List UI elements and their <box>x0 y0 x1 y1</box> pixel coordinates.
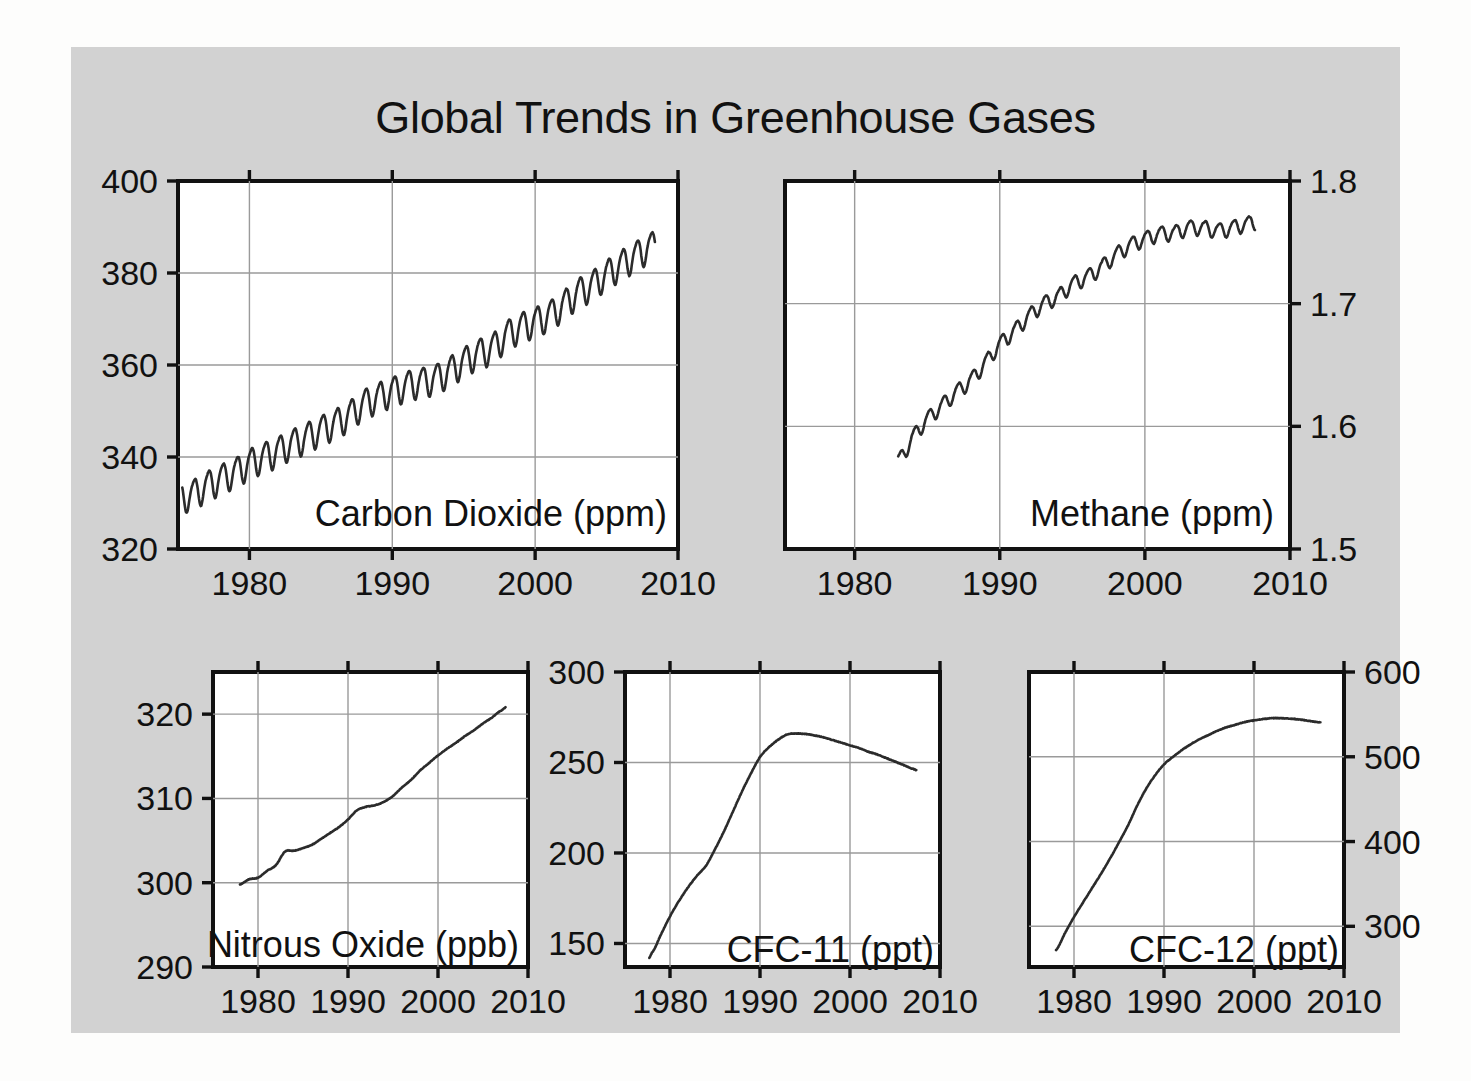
y-tick-label: 380 <box>101 254 158 292</box>
page-title: Global Trends in Greenhouse Gases <box>71 92 1400 144</box>
panel-caption-cfc-12: CFC-12 (ppt) <box>1129 929 1339 970</box>
y-tick-label: 300 <box>1364 907 1421 945</box>
slide-canvas: Global Trends in Greenhouse Gases 198019… <box>71 47 1400 1033</box>
y-tick-label: 150 <box>548 924 605 962</box>
chart-svg-methane: 19801990200020101.51.61.71.8Methane (ppm… <box>714 141 1364 641</box>
x-tick-label: 2000 <box>1216 982 1292 1020</box>
x-tick-label: 2000 <box>400 982 476 1020</box>
chart-panel-carbon-dioxide: 1980199020002010320340360380400Carbon Di… <box>107 141 707 641</box>
y-tick-label: 340 <box>101 438 158 476</box>
chart-svg-carbon-dioxide: 1980199020002010320340360380400Carbon Di… <box>107 141 707 641</box>
y-tick-label: 300 <box>548 653 605 691</box>
plot-frame <box>1029 672 1344 967</box>
x-tick-label: 2010 <box>640 564 716 602</box>
x-tick-label: 1980 <box>1036 982 1112 1020</box>
x-tick-label: 2000 <box>497 564 573 602</box>
x-tick-label: 1990 <box>722 982 798 1020</box>
y-tick-label: 290 <box>136 948 193 986</box>
panel-caption-nitrous-oxide: Nitrous Oxide (ppb) <box>207 924 519 965</box>
y-tick-label: 310 <box>136 779 193 817</box>
x-tick-label: 2010 <box>1252 564 1328 602</box>
y-tick-label: 300 <box>136 864 193 902</box>
y-tick-label: 360 <box>101 346 158 384</box>
y-tick-label: 250 <box>548 743 605 781</box>
x-tick-label: 1990 <box>354 564 430 602</box>
x-tick-label: 1990 <box>962 564 1038 602</box>
plot-frame <box>213 672 528 967</box>
y-tick-label: 600 <box>1364 653 1421 691</box>
x-tick-label: 2010 <box>1306 982 1382 1020</box>
panel-caption-methane: Methane (ppm) <box>1030 493 1274 534</box>
x-tick-label: 1990 <box>1126 982 1202 1020</box>
y-tick-label: 400 <box>101 162 158 200</box>
chart-panel-cfc-12: 1980199020002010300400500600CFC-12 (ppt) <box>924 632 1454 1062</box>
y-tick-label: 320 <box>101 530 158 568</box>
y-tick-label: 1.7 <box>1310 285 1357 323</box>
y-tick-label: 1.6 <box>1310 407 1357 445</box>
chart-panel-methane: 19801990200020101.51.61.71.8Methane (ppm… <box>714 141 1364 641</box>
x-tick-label: 2000 <box>812 982 888 1020</box>
x-tick-label: 2000 <box>1107 564 1183 602</box>
panel-caption-carbon-dioxide: Carbon Dioxide (ppm) <box>315 493 667 534</box>
y-tick-label: 400 <box>1364 823 1421 861</box>
y-tick-label: 1.8 <box>1310 162 1357 200</box>
figure-page: Global Trends in Greenhouse Gases 198019… <box>0 0 1471 1081</box>
x-tick-label: 1980 <box>220 982 296 1020</box>
x-tick-label: 1990 <box>310 982 386 1020</box>
y-tick-label: 500 <box>1364 738 1421 776</box>
x-tick-label: 1980 <box>212 564 288 602</box>
chart-svg-cfc-12: 1980199020002010300400500600CFC-12 (ppt) <box>924 632 1454 1062</box>
x-tick-label: 1980 <box>817 564 893 602</box>
y-tick-label: 320 <box>136 695 193 733</box>
panel-caption-cfc-11: CFC-11 (ppt) <box>727 929 934 970</box>
y-tick-label: 200 <box>548 834 605 872</box>
x-tick-label: 1980 <box>632 982 708 1020</box>
y-tick-label: 1.5 <box>1310 530 1357 568</box>
plot-frame <box>625 672 940 967</box>
